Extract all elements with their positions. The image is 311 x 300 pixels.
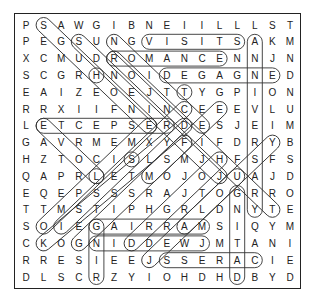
grid-letter[interactable]: D bbox=[229, 269, 246, 286]
grid-letter[interactable]: T bbox=[18, 201, 35, 218]
grid-letter[interactable]: N bbox=[123, 101, 140, 118]
grid-letter[interactable]: G bbox=[194, 67, 211, 84]
grid-letter[interactable]: R bbox=[211, 252, 228, 269]
grid-letter[interactable]: E bbox=[194, 252, 211, 269]
grid-letter[interactable]: L bbox=[194, 201, 211, 218]
grid-letter[interactable]: H bbox=[176, 269, 193, 286]
grid-letter[interactable]: C bbox=[176, 101, 193, 118]
grid-letter[interactable]: F bbox=[211, 134, 228, 151]
grid-letter[interactable]: R bbox=[141, 218, 158, 235]
grid-letter[interactable]: S bbox=[158, 151, 175, 168]
grid-letter[interactable]: V bbox=[141, 33, 158, 50]
grid-letter[interactable]: N bbox=[282, 84, 299, 101]
grid-letter[interactable]: N bbox=[88, 235, 105, 252]
grid-letter[interactable]: L bbox=[264, 101, 281, 118]
grid-letter[interactable]: G bbox=[18, 134, 35, 151]
grid-letter[interactable]: T bbox=[211, 33, 228, 50]
grid-letter[interactable]: N bbox=[246, 50, 263, 67]
grid-letter[interactable]: L bbox=[18, 117, 35, 134]
grid-letter[interactable]: N bbox=[176, 50, 193, 67]
grid-letter[interactable]: T bbox=[282, 17, 299, 34]
grid-letter[interactable]: E bbox=[123, 252, 140, 269]
grid-letter[interactable]: I bbox=[106, 201, 123, 218]
grid-letter[interactable]: O bbox=[53, 235, 70, 252]
grid-letter[interactable]: E bbox=[141, 117, 158, 134]
grid-letter[interactable]: J bbox=[194, 235, 211, 252]
grid-letter[interactable]: W bbox=[70, 17, 87, 34]
grid-letter[interactable]: I bbox=[282, 235, 299, 252]
grid-letter[interactable]: C bbox=[35, 50, 52, 67]
grid-letter[interactable]: B bbox=[282, 134, 299, 151]
grid-letter[interactable]: X bbox=[53, 101, 70, 118]
grid-letter[interactable]: U bbox=[70, 50, 87, 67]
grid-letter[interactable]: L bbox=[35, 269, 52, 286]
grid-letter[interactable]: P bbox=[123, 201, 140, 218]
grid-letter[interactable]: S bbox=[70, 33, 87, 50]
grid-letter[interactable]: T bbox=[176, 84, 193, 101]
grid-letter[interactable]: D bbox=[18, 269, 35, 286]
grid-letter[interactable]: H bbox=[18, 151, 35, 168]
grid-letter[interactable]: B bbox=[246, 269, 263, 286]
grid-letter[interactable]: K bbox=[35, 235, 52, 252]
grid-letter[interactable]: O bbox=[194, 168, 211, 185]
grid-letter[interactable]: M bbox=[141, 50, 158, 67]
grid-letter[interactable]: S bbox=[70, 201, 87, 218]
grid-letter[interactable]: C bbox=[18, 235, 35, 252]
grid-letter[interactable]: R bbox=[158, 117, 175, 134]
grid-letter[interactable]: N bbox=[264, 235, 281, 252]
grid-letter[interactable]: E bbox=[53, 185, 70, 202]
grid-letter[interactable]: I bbox=[141, 269, 158, 286]
grid-letter[interactable]: A bbox=[158, 185, 175, 202]
grid-letter[interactable]: D bbox=[158, 67, 175, 84]
grid-letter[interactable]: F bbox=[106, 101, 123, 118]
grid-letter[interactable]: A bbox=[176, 218, 193, 235]
grid-letter[interactable]: U bbox=[88, 33, 105, 50]
grid-letter[interactable]: O bbox=[35, 218, 52, 235]
grid-letter[interactable]: I bbox=[229, 218, 246, 235]
grid-letter[interactable]: I bbox=[264, 117, 281, 134]
grid-letter[interactable]: T bbox=[158, 84, 175, 101]
grid-letter[interactable]: I bbox=[106, 17, 123, 34]
grid-letter[interactable]: J bbox=[229, 117, 246, 134]
grid-letter[interactable]: F bbox=[264, 151, 281, 168]
grid-letter[interactable]: O bbox=[158, 269, 175, 286]
grid-letter[interactable]: I bbox=[158, 33, 175, 50]
grid-letter[interactable]: A bbox=[35, 168, 52, 185]
grid-letter[interactable]: O bbox=[123, 50, 140, 67]
grid-letter[interactable]: P bbox=[18, 17, 35, 34]
grid-letter[interactable]: F bbox=[229, 151, 246, 168]
grid-letter[interactable]: R bbox=[18, 101, 35, 118]
grid-letter[interactable]: J bbox=[211, 168, 228, 185]
grid-letter[interactable]: A bbox=[53, 17, 70, 34]
grid-letter[interactable]: B bbox=[123, 17, 140, 34]
grid-letter[interactable]: M bbox=[282, 33, 299, 50]
grid-letter[interactable]: Q bbox=[18, 168, 35, 185]
grid-letter[interactable]: S bbox=[229, 33, 246, 50]
grid-letter[interactable]: I bbox=[70, 101, 87, 118]
grid-letter[interactable]: R bbox=[70, 168, 87, 185]
grid-letter[interactable]: R bbox=[141, 185, 158, 202]
grid-letter[interactable]: X bbox=[18, 50, 35, 67]
grid-letter[interactable]: I bbox=[264, 252, 281, 269]
grid-letter[interactable]: S bbox=[123, 117, 140, 134]
grid-letter[interactable]: R bbox=[70, 134, 87, 151]
grid-letter[interactable]: Y bbox=[246, 201, 263, 218]
grid-letter[interactable]: Y bbox=[123, 269, 140, 286]
grid-letter[interactable]: E bbox=[70, 218, 87, 235]
grid-letter[interactable]: G bbox=[70, 235, 87, 252]
grid-letter[interactable]: E bbox=[18, 185, 35, 202]
grid-letter[interactable]: I bbox=[176, 17, 193, 34]
grid-letter[interactable]: U bbox=[282, 101, 299, 118]
grid-letter[interactable]: G bbox=[88, 218, 105, 235]
grid-letter[interactable]: Z bbox=[70, 84, 87, 101]
grid-letter[interactable]: M bbox=[282, 218, 299, 235]
grid-letter[interactable]: M bbox=[123, 134, 140, 151]
grid-letter[interactable]: S bbox=[211, 117, 228, 134]
grid-letter[interactable]: M bbox=[53, 50, 70, 67]
grid-letter[interactable]: C bbox=[194, 50, 211, 67]
grid-letter[interactable]: L bbox=[211, 17, 228, 34]
grid-letter[interactable]: X bbox=[141, 134, 158, 151]
grid-letter[interactable]: S bbox=[211, 218, 228, 235]
grid-letter[interactable]: O bbox=[264, 84, 281, 101]
grid-letter[interactable]: R bbox=[264, 185, 281, 202]
